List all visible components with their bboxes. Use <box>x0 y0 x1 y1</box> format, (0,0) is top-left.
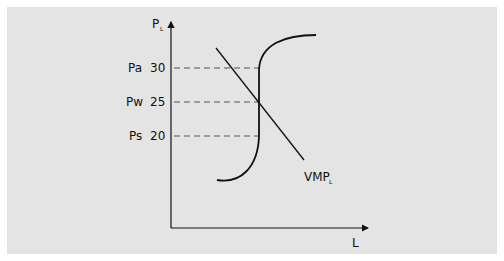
x-axis-label: L <box>352 236 359 250</box>
price-value-pa: 30 <box>150 61 165 75</box>
y-axis-label: P <box>152 17 159 31</box>
price-value-ps: 20 <box>150 129 165 143</box>
labor-market-diagram: P L L Pa 30 Pw 25 Ps 20 VMP L <box>0 0 504 261</box>
y-axis-label-subscript: L <box>160 25 164 32</box>
vmp-label-subscript: L <box>329 178 333 185</box>
price-label-ps: Ps <box>129 129 142 143</box>
price-label-pa: Pa <box>128 61 142 75</box>
price-label-pw: Pw <box>126 95 143 109</box>
vmp-label: VMP <box>304 170 330 184</box>
price-value-pw: 25 <box>150 95 165 109</box>
supply-curve <box>217 35 316 181</box>
